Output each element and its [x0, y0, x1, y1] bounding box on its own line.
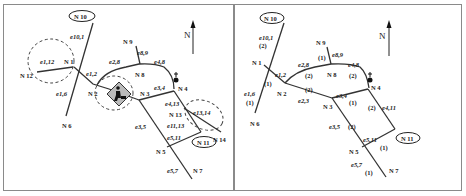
original-road-network-graph: N N 10 N 11 N 9 N 1 N 12 N 2 N 8 N 3 N 4… — [4, 5, 235, 192]
edge-e1-12-label: e1,12 — [40, 58, 55, 65]
weight-e2-3: (2) — [305, 86, 313, 94]
edge-e2-8-label: e2,8 — [298, 61, 310, 68]
incident-marker-icon — [174, 72, 179, 83]
edge-e3-4-label: e3,4 — [154, 84, 166, 91]
weight-e2-8: (2) — [305, 72, 313, 80]
node-n2-label: N 2 — [88, 90, 98, 97]
edge-e4-8-label: e4,8 — [348, 61, 360, 68]
node-n9-label: N 9 — [316, 39, 326, 46]
node-n5-label: N 5 — [156, 148, 166, 155]
node-n7-label: N 7 — [193, 167, 203, 174]
roadwork-icon — [107, 82, 131, 106]
node-n6-label: N 6 — [250, 120, 260, 127]
weight-e5-11: (1) — [380, 144, 388, 152]
edge-e1-6-label: e1,6 — [56, 90, 68, 97]
weight-e4-8: (2) — [349, 72, 357, 80]
edge-e3-4-label: e3,4 — [336, 92, 348, 99]
north-arrow-icon — [387, 20, 392, 56]
north-label: N — [379, 31, 386, 41]
node-n12-label: N 12 — [20, 72, 33, 79]
road-e8-9 — [327, 47, 331, 64]
original-road-network-panel: N N 10 N 11 N 9 N 1 N 12 N 2 N 8 N 3 N 4… — [3, 4, 234, 191]
edge-e4-8-label: e4,8 — [154, 58, 166, 65]
node-n9-label: N 9 — [123, 38, 133, 45]
weight-e1-2: (1) — [264, 80, 272, 88]
edge-e8-9-label: e8,9 — [332, 51, 344, 58]
node-n8-label: N 8 — [135, 71, 145, 78]
node-n3-label: N 3 — [323, 103, 333, 110]
weighted-road-network-graph: N N 10 N 11 N 9 N 1 N 2 N 8 N 3 N 4 N 6 … — [235, 5, 463, 192]
edge-e5-11-label: e5,11 — [167, 134, 181, 141]
node-n7-label: N 7 — [389, 167, 399, 174]
node-n1-label: N 1 — [64, 58, 74, 65]
node-n4-label: N 4 — [371, 84, 381, 91]
node-n8-label: N 8 — [327, 71, 337, 78]
node-n5-label: N 5 — [349, 148, 359, 155]
weight-e8-9: (1) — [318, 54, 326, 62]
node-n11-label: N 11 — [197, 139, 209, 146]
node-n3-label: N 3 — [140, 90, 150, 97]
edge-e1-2-label: e1,2 — [86, 70, 98, 77]
edge-e10-1-label: e10,1 — [70, 33, 84, 40]
edge-e13-14-label: e13,14 — [193, 109, 211, 116]
edge-e2-8-label: e2,8 — [109, 58, 121, 65]
weighted-road-network-panel: N N 10 N 11 N 9 N 1 N 2 N 8 N 3 N 4 N 6 … — [234, 4, 462, 191]
node-n10-label: N 10 — [74, 13, 87, 20]
edge-e3-5-label: e3,5 — [135, 123, 147, 130]
edge-e4-13-label: e4,13 — [165, 100, 180, 107]
edge-e1-6-label: e1,6 — [244, 90, 256, 97]
node-n1-label: N 1 — [252, 59, 262, 66]
weight-e4-11: (2) — [368, 104, 376, 112]
weight-e5-7: (1) — [365, 169, 373, 177]
edge-e2-3-label: e2,3 — [298, 97, 310, 104]
edge-e5-7-label: e5,7 — [167, 167, 179, 174]
edge-e1-2-label: e1,2 — [275, 71, 287, 78]
incident-marker-icon — [368, 72, 373, 83]
node-n11-label: N 11 — [401, 135, 413, 142]
north-arrow-icon — [191, 20, 196, 54]
node-n10-label: N 10 — [264, 15, 277, 22]
edge-e8-9-label: e8,9 — [137, 49, 149, 56]
edge-e5-11-label: e5,11 — [363, 136, 377, 143]
node-n13-label: N 13 — [169, 111, 183, 118]
edge-e11-13-label: e11,13 — [167, 122, 185, 129]
node-n14-label: N 14 — [213, 136, 227, 143]
edge-e4-11-label: e4,11 — [382, 104, 396, 111]
road-e1-12 — [37, 67, 73, 72]
weight-e10-1: (2) — [259, 42, 267, 50]
weight-e3-4: (1) — [349, 99, 357, 107]
weight-e3-5: (2) — [348, 123, 356, 131]
node-n4-label: N 4 — [178, 85, 188, 92]
north-label: N — [184, 30, 191, 40]
edge-e10-1-label: e10,1 — [259, 34, 273, 41]
node-n6-label: N 6 — [62, 122, 72, 129]
edge-e3-5-label: e3,5 — [329, 123, 341, 130]
node-n2-label: N 2 — [277, 90, 287, 97]
edge-e5-7-label: e5,7 — [351, 161, 363, 168]
weight-e1-6: (1) — [246, 99, 254, 107]
